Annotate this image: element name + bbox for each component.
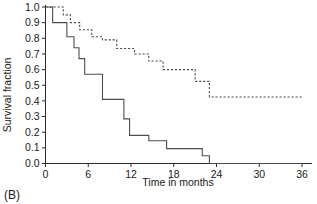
y-tick-label: 0.9 (25, 16, 40, 28)
panel-label: (B) (4, 188, 20, 202)
y-tick-label: 0.1 (25, 141, 40, 153)
y-tick-label: 0.3 (25, 110, 40, 122)
y-tick-label: 0.8 (25, 32, 40, 44)
y-tick-label: 0.6 (25, 63, 40, 75)
y-tick-label: 0.0 (25, 157, 40, 169)
y-tick-labels: 0.00.10.20.30.40.50.60.70.80.91.0 (25, 1, 40, 170)
kaplan-meier-plot: 0.00.10.20.30.40.50.60.70.80.91.0 061218… (0, 0, 317, 204)
y-axis-title: Survival fraction (1, 57, 13, 132)
y-tick-label: 1.0 (25, 1, 40, 13)
y-tick-label: 0.2 (25, 126, 40, 138)
y-tick-label: 0.7 (25, 48, 40, 60)
x-tick-label: 36 (296, 168, 308, 180)
survival-chart-figure: 0.00.10.20.30.40.50.60.70.80.91.0 061218… (0, 0, 317, 204)
x-tick-label: 30 (253, 168, 265, 180)
x-tick-label: 6 (85, 168, 91, 180)
y-tick-label: 0.5 (25, 79, 40, 91)
x-axis-title: Time in months (142, 176, 213, 188)
x-tick-label: 0 (43, 168, 49, 180)
x-tick-label: 12 (125, 168, 137, 180)
y-tick-label: 0.4 (25, 95, 40, 107)
